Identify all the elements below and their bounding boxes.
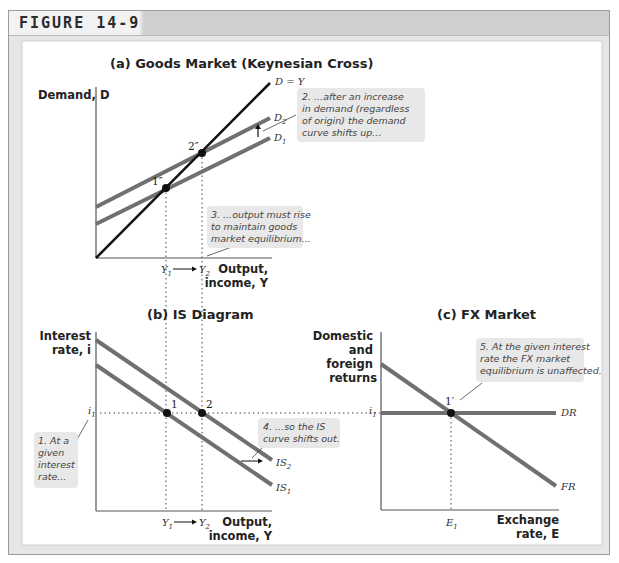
panel-c-title: (c) FX Market <box>437 307 536 322</box>
point-1-double-prime <box>162 184 170 192</box>
point-1 <box>163 409 171 417</box>
panel-b-y-axis-label-2: rate, i <box>52 343 91 357</box>
point-1-prime-label: 1′ <box>445 395 455 407</box>
point-1-prime <box>447 409 455 417</box>
point-2-label-b: 2 <box>206 398 213 410</box>
figure-diagram: (a) Goods Market (Keynesian Cross) Deman… <box>0 0 619 563</box>
panel-a-y-axis-label: Demand, D <box>38 88 109 102</box>
panel-b-title: (b) IS Diagram <box>147 307 254 322</box>
point-1-label: 1″ <box>152 175 163 187</box>
panel-a-x-axis-label-1: Output, <box>218 262 268 276</box>
panel-a-x-axis-label-2: income, Y <box>205 276 269 290</box>
d-equals-y-label: D = Y <box>274 76 306 87</box>
note-3-text: 3. ...output must rise to maintain goods… <box>211 209 314 244</box>
panel-c-x-axis-label-2: rate, E <box>516 527 559 541</box>
dr-label: DR <box>560 407 577 418</box>
point-2-label: 2″ <box>188 140 199 152</box>
panel-b-x-axis-label-2: income, Y <box>209 529 273 543</box>
panel-a-title: (a) Goods Market (Keynesian Cross) <box>110 56 373 71</box>
panel-b-y-axis-label-1: Interest <box>39 329 91 343</box>
panel-b-x-axis-label-1: Output, <box>222 515 272 529</box>
point-2 <box>198 409 206 417</box>
point-1-label-b: 1 <box>171 398 178 410</box>
fr-label: FR <box>560 481 576 492</box>
note-4-text: 4. ...so the IS curve shifts out. <box>263 421 340 444</box>
panel-c-x-axis-label-1: Exchange <box>497 513 559 527</box>
point-2-double-prime <box>198 149 206 157</box>
